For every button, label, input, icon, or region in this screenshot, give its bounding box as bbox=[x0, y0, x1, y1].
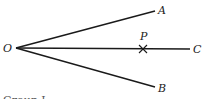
label-c: C bbox=[193, 43, 202, 56]
label-b: B bbox=[157, 82, 166, 95]
label-o: O bbox=[3, 42, 12, 55]
ray-oa bbox=[16, 11, 155, 48]
ray-oc bbox=[16, 48, 190, 49]
label-a: A bbox=[157, 4, 166, 17]
label-p: P bbox=[139, 30, 148, 43]
angle-bisector-diagram: O A B C P Group I bbox=[0, 0, 204, 99]
caption: Group I bbox=[3, 94, 46, 99]
ray-ob bbox=[16, 48, 155, 87]
